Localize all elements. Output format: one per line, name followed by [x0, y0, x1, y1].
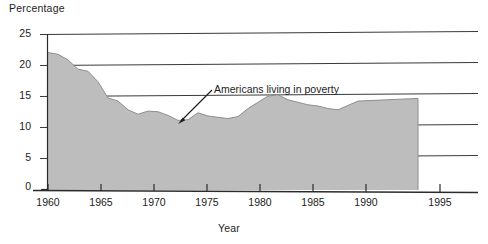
y-tick-label-0: 0 [9, 180, 31, 192]
gridline-25 [40, 32, 478, 35]
y-tick-label-20: 20 [9, 58, 31, 70]
y-axis [41, 34, 48, 190]
y-tick-label-10: 10 [9, 120, 31, 132]
x-axis-title: Year [218, 222, 240, 234]
x-tick-label-1965: 1965 [79, 196, 123, 208]
x-tick-label-1990: 1990 [344, 196, 388, 208]
y-tick-label-25: 25 [9, 27, 31, 39]
area-fill [48, 53, 418, 191]
gridline-20 [40, 63, 478, 66]
annotation-label-americans-living-in-poverty: Americans living in poverty [214, 83, 339, 95]
poverty-area-chart: Percentage Year 25 20 15 10 5 0 1960 196… [0, 0, 488, 244]
x-axis-line [33, 191, 478, 193]
x-tick-label-1970: 1970 [132, 196, 176, 208]
series-area-americans-living-in-poverty [48, 53, 418, 191]
x-tick-label-1985: 1985 [291, 196, 335, 208]
x-tick-label-1995: 1995 [418, 196, 462, 208]
x-tick-label-1960: 1960 [26, 196, 70, 208]
x-tick-label-1975: 1975 [185, 196, 229, 208]
x-tick-label-1980: 1980 [238, 196, 282, 208]
y-tick-label-15: 15 [9, 89, 31, 101]
y-tick-label-5: 5 [9, 151, 31, 163]
y-axis-title: Percentage [9, 2, 65, 14]
